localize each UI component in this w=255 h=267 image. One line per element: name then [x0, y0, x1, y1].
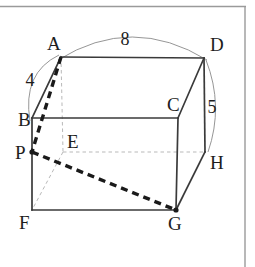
vertex-label-A: A	[47, 33, 61, 54]
vertex-label-F: F	[19, 212, 30, 233]
edge-GH	[176, 152, 205, 210]
geometry-figure: ABCDEFGHP 845	[0, 0, 255, 267]
bold-dashed-group	[32, 57, 176, 210]
measure-label-8: 8	[121, 29, 130, 49]
vertex-label-G: G	[168, 213, 182, 234]
measure-label-4: 4	[26, 70, 35, 90]
vertex-label-E: E	[67, 131, 79, 152]
edge-AE	[61, 57, 63, 152]
edge-CG	[176, 118, 178, 210]
vertex-label-H: H	[210, 152, 224, 173]
edge-CD	[178, 58, 204, 118]
segment-AP	[32, 57, 61, 152]
vertex-label-D: D	[210, 34, 224, 55]
vertex-label-C: C	[167, 94, 180, 115]
segment-PG	[32, 152, 176, 210]
vertex-label-P: P	[15, 142, 26, 163]
measure-label-5: 5	[208, 97, 217, 117]
figure-canvas: ABCDEFGHP 845	[0, 0, 255, 267]
edge-AD	[61, 57, 204, 58]
point-G	[173, 207, 178, 212]
edge-EF	[32, 152, 63, 210]
edge-DH	[204, 58, 205, 152]
hidden-edge-group	[32, 57, 205, 210]
point-P	[29, 149, 34, 154]
solid-edge-group	[32, 57, 205, 210]
vertex-label-B: B	[18, 109, 31, 130]
